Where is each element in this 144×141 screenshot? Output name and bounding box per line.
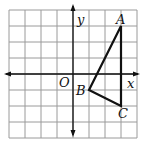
y-axis <box>71 4 76 137</box>
x-axis <box>4 72 140 77</box>
vertex-label-c: C <box>118 106 128 121</box>
y-axis-down-arrow-icon <box>71 130 76 137</box>
origin-label: O <box>59 75 70 90</box>
y-axis-up-arrow-icon <box>71 4 76 11</box>
vertex-label-b: B <box>75 83 86 98</box>
x-axis-left-arrow-icon <box>4 72 11 77</box>
x-axis-label: x <box>127 76 135 91</box>
coordinate-plane: y x O A B C <box>0 0 144 141</box>
vertex-label-a: A <box>115 12 125 27</box>
y-axis-label: y <box>76 12 85 27</box>
